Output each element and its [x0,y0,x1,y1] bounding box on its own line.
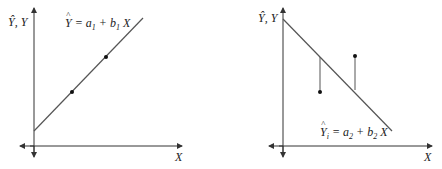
x-axis-label: X [174,150,183,164]
regression-line [283,19,392,131]
regression-equation: Y = a1 + b1 X [65,16,131,32]
data-point [318,90,322,94]
data-point [70,90,74,94]
y-axis-label: Ŷ, Y [8,15,29,29]
y-axis-label: Ŷ, Y [258,11,279,25]
left-diagram: Ŷ, Y X Y = a1 + b1 X ^ [8,8,183,164]
x-axis-label: X [423,150,432,164]
regression-line [34,18,143,131]
regression-diagrams: Ŷ, Y X Y = a1 + b1 X ^ Ŷ, Y X Yi = a2 … [0,0,442,169]
regression-equation: Yi = a2 + b2 X [320,125,388,141]
data-point [104,55,108,59]
right-diagram: Ŷ, Y X Yi = a2 + b2 X ^ [258,8,432,164]
data-point [353,54,357,58]
